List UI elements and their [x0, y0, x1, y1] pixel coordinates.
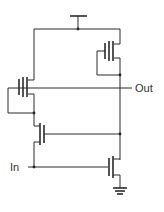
- vdd-symbol: [70, 16, 87, 30]
- pmos-m2: [8, 29, 35, 114]
- nmos-m4: [109, 156, 120, 188]
- out-label: Out: [135, 82, 153, 94]
- ground-symbol: [113, 188, 127, 194]
- circuit-schematic: Out In: [0, 0, 164, 212]
- in-label: In: [10, 161, 19, 173]
- pmos-m1: [97, 29, 121, 76]
